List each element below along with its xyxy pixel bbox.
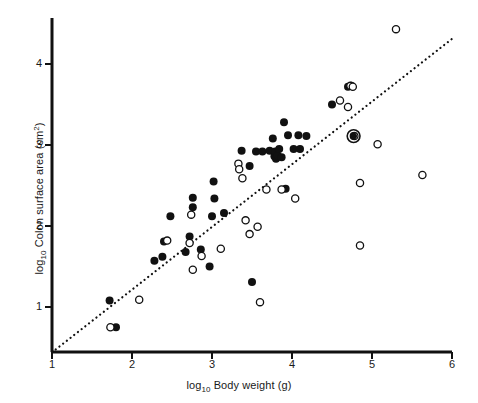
y-tick-label-2: 2: [26, 219, 42, 231]
data-point-filled: [328, 101, 336, 109]
data-point-filled: [238, 147, 246, 155]
data-point-filled: [189, 194, 197, 202]
plot-area: [0, 0, 478, 403]
y-tick-label-4: 4: [26, 57, 42, 69]
data-point-open: [263, 186, 270, 193]
data-point-filled: [166, 212, 174, 220]
data-point-open: [336, 97, 343, 104]
data-point-filled: [220, 209, 228, 217]
data-point-open: [198, 252, 205, 259]
data-point-highlighted: [350, 133, 357, 140]
scatter-chart: log10 Body weight (g) log10 Colon surfac…: [0, 0, 478, 403]
data-point-filled: [106, 297, 114, 305]
data-point-open: [239, 175, 246, 182]
trendline: [52, 39, 452, 352]
data-point-open: [242, 217, 249, 224]
data-point-filled: [280, 118, 288, 126]
data-point-filled: [208, 212, 216, 220]
data-point-open: [136, 296, 143, 303]
data-point-open: [256, 299, 263, 306]
data-point-open: [419, 171, 426, 178]
data-point-filled: [246, 162, 254, 170]
data-point-open: [374, 141, 381, 148]
data-point-filled: [248, 278, 256, 286]
data-point-filled: [258, 147, 266, 155]
data-point-filled: [206, 263, 214, 271]
data-point-filled: [150, 257, 158, 265]
axis-ticks: [45, 64, 452, 359]
data-point-filled: [294, 131, 302, 139]
data-point-open: [189, 266, 196, 273]
data-point-filled: [302, 132, 310, 140]
y-axis-label-sub: 10: [39, 250, 48, 259]
data-point-filled: [210, 177, 218, 185]
x-tick-label-2: 2: [122, 358, 142, 370]
trendline-path: [52, 39, 452, 352]
x-axis-label-sub: 10: [201, 385, 210, 394]
y-tick-label-3: 3: [26, 138, 42, 150]
data-point-filled: [189, 203, 197, 211]
data-point-filled: [275, 145, 283, 153]
data-point-open: [278, 186, 285, 193]
data-point-filled: [284, 131, 292, 139]
data-point-filled: [158, 253, 166, 261]
x-tick-label-5: 5: [362, 358, 382, 370]
y-axis-label-sup: 2: [32, 126, 41, 131]
data-point-open: [392, 26, 399, 33]
data-point-open: [236, 166, 243, 173]
data-point-filled: [269, 135, 277, 143]
data-point-filled: [182, 248, 190, 256]
data-points: [106, 26, 426, 332]
data-point-open: [164, 237, 171, 244]
x-tick-label-1: 1: [42, 358, 62, 370]
x-tick-label-6: 6: [442, 358, 462, 370]
x-tick-label-4: 4: [282, 358, 302, 370]
data-point-open: [356, 179, 363, 186]
y-axis-label: log10 Colon surface area (cm2): [32, 68, 49, 328]
data-point-open: [254, 223, 261, 230]
data-point-open: [107, 324, 114, 331]
x-axis-label-prefix: log: [186, 379, 201, 391]
data-point-open: [292, 195, 299, 202]
data-point-filled: [210, 194, 218, 202]
data-point-open: [217, 245, 224, 252]
data-point-filled: [296, 145, 304, 153]
x-axis-label: log10 Body weight (g): [0, 379, 478, 394]
data-point-filled: [278, 153, 286, 161]
data-point-open: [246, 231, 253, 238]
y-axis-label-prefix: log: [33, 260, 45, 275]
data-point-open: [349, 83, 356, 90]
x-axis-label-rest: Body weight (g): [211, 379, 292, 391]
data-point-open: [356, 242, 363, 249]
data-point-open: [186, 239, 193, 246]
data-point-open: [188, 211, 195, 218]
data-point-open: [344, 103, 351, 110]
y-axis-label-tail: ): [33, 122, 45, 126]
y-tick-label-1: 1: [26, 300, 42, 312]
x-tick-label-3: 3: [202, 358, 222, 370]
